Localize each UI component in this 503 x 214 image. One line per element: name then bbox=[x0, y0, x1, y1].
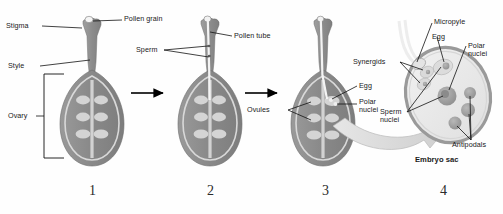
label-egg-3: Egg bbox=[359, 82, 372, 90]
label-stigma: Stigma bbox=[6, 22, 29, 30]
label-pollen-tube: Pollen tube bbox=[234, 32, 271, 40]
embryo-sac-stage-4 bbox=[394, 20, 501, 153]
sperm-leader-b bbox=[164, 50, 209, 57]
label-ovary: Ovary bbox=[8, 112, 27, 120]
label-synergids: Synergids bbox=[353, 58, 385, 66]
label-micropyle: Micropyle bbox=[434, 18, 465, 26]
sperm-leader-a bbox=[164, 46, 208, 50]
placenta-1 bbox=[90, 80, 93, 158]
label-sperm: Sperm bbox=[136, 46, 157, 54]
polar-nucleus-core bbox=[441, 90, 449, 98]
style-leader bbox=[40, 60, 90, 66]
label-pollen-grain: Pollen grain bbox=[124, 15, 163, 23]
pistil-stage-2 bbox=[164, 16, 242, 166]
label-sperm-nuclei-line2: nuclei bbox=[380, 116, 399, 124]
stage-number-2: 2 bbox=[207, 183, 214, 199]
pistil-stage-3 bbox=[288, 16, 357, 166]
label-antipodals: Antipodals bbox=[452, 141, 486, 149]
label-style: Style bbox=[8, 62, 24, 70]
stage-number-1: 1 bbox=[89, 183, 96, 199]
pollen-grain-1 bbox=[85, 16, 93, 22]
caption-embryo-sac: Embryo sac bbox=[415, 156, 459, 164]
stage-number-3: 3 bbox=[322, 183, 329, 199]
stage-number-4: 4 bbox=[440, 183, 447, 199]
label-polar-nuclei-4-line2: nuclei bbox=[468, 50, 487, 58]
label-polar-nuclei-3-line2: nuclei bbox=[359, 106, 378, 114]
polar-nuclei-3 bbox=[334, 102, 338, 106]
fertilization-diagram: Stigma Pollen grain Style Ovary Pollen t… bbox=[0, 0, 503, 214]
stigma-leader bbox=[42, 26, 82, 28]
pistil-stage-1 bbox=[36, 16, 124, 166]
label-ovules: Ovules bbox=[247, 106, 270, 114]
label-egg-4: Egg bbox=[432, 33, 445, 41]
egg-nucleus-4 bbox=[443, 63, 450, 70]
placenta-3 bbox=[321, 80, 324, 158]
